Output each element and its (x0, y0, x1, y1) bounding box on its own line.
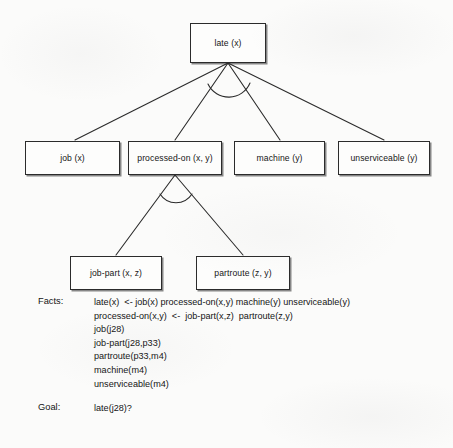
edge-late-to-unserviceable (228, 63, 384, 140)
node-label-machine: machine (y) (257, 153, 303, 163)
node-unserviceable[interactable]: unserviceable (y) (338, 141, 430, 175)
goal-lines: late(j28)? (94, 402, 132, 416)
goal-label: Goal: (38, 402, 80, 412)
node-label-job-part: job-part (x, z) (90, 268, 142, 278)
fact-line: job(j28) (94, 323, 350, 337)
fact-line: late(x) <- job(x) processed-on(x,y) mach… (94, 296, 350, 310)
edge-late-to-machine (228, 63, 280, 140)
goal-row: Goal: late(j28)? (0, 402, 453, 416)
node-label-job: job (x) (60, 153, 85, 163)
node-partroute[interactable]: partroute (z, y) (196, 256, 290, 290)
fact-line: unserviceable(m4) (94, 378, 350, 392)
edge-late-to-processed-on (175, 63, 228, 140)
and-arc-late (208, 83, 250, 97)
node-label-unserviceable: unserviceable (y) (350, 153, 417, 163)
node-processed-on[interactable]: processed-on (x, y) (128, 141, 222, 175)
fact-line: partroute(p33,m4) (94, 350, 350, 364)
node-label-processed-on: processed-on (x, y) (137, 153, 212, 163)
node-machine[interactable]: machine (y) (234, 141, 325, 175)
edge-processed-on-to-partroute (175, 175, 243, 255)
edge-processed-on-to-job-part (116, 175, 175, 255)
fact-line: processed-on(x,y) <- job-part(x,z) partr… (94, 310, 350, 324)
node-label-partroute: partroute (z, y) (214, 268, 271, 278)
edge-late-to-job (75, 63, 228, 140)
facts-lines: late(x) <- job(x) processed-on(x,y) mach… (94, 296, 350, 391)
facts-row: Facts: late(x) <- job(x) processed-on(x,… (0, 296, 453, 391)
and-or-tree-figure: late (x) job (x) processed-on (x, y) mac… (0, 0, 453, 448)
and-arc-processed-on (160, 194, 192, 203)
clause-block: Facts: late(x) <- job(x) processed-on(x,… (0, 296, 453, 416)
fact-line: job-part(j28,p33) (94, 337, 350, 351)
node-late[interactable]: late (x) (190, 23, 266, 63)
fact-line: machine(m4) (94, 364, 350, 378)
node-job[interactable]: job (x) (25, 141, 120, 175)
node-label-late: late (x) (214, 38, 241, 48)
facts-label: Facts: (38, 296, 80, 306)
node-job-part[interactable]: job-part (x, z) (70, 256, 162, 290)
goal-line: late(j28)? (94, 402, 132, 416)
